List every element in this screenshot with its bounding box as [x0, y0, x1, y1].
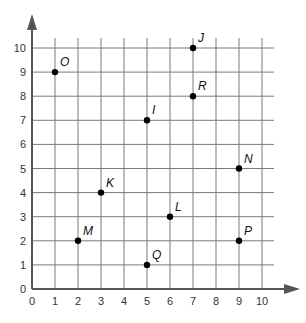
- x-tick-label: 0: [29, 295, 35, 307]
- point-marker-icon: [75, 238, 81, 244]
- y-tick-label: 6: [20, 138, 26, 150]
- x-tick-label: 8: [213, 295, 219, 307]
- x-tick-label: 4: [121, 295, 127, 307]
- plotted-points: OJRINKLMPQ: [52, 31, 253, 268]
- point-label: P: [244, 224, 252, 238]
- point-label: N: [244, 152, 253, 166]
- point-marker-icon: [236, 238, 242, 244]
- x-tick-label: 1: [52, 295, 58, 307]
- y-tick-label: 1: [20, 259, 26, 271]
- y-tick-label: 2: [20, 235, 26, 247]
- y-tick-labels: 012345678910: [14, 42, 26, 295]
- y-axis-arrow-icon: [27, 14, 37, 30]
- y-tick-label: 9: [20, 66, 26, 78]
- point-marker-icon: [190, 45, 196, 51]
- x-tick-label: 6: [167, 295, 173, 307]
- y-tick-label: 7: [20, 114, 26, 126]
- x-tick-label: 10: [256, 295, 268, 307]
- point-label: M: [83, 224, 93, 238]
- point-label: I: [152, 103, 156, 117]
- point-marker-icon: [52, 69, 58, 75]
- y-tick-label: 5: [20, 163, 26, 175]
- x-tick-labels: 012345678910: [29, 295, 268, 307]
- y-tick-label: 10: [14, 42, 26, 54]
- y-tick-label: 4: [20, 187, 26, 199]
- point-label: K: [106, 176, 115, 190]
- point-label: J: [197, 31, 205, 45]
- y-tick-label: 0: [20, 283, 26, 295]
- point-label: O: [60, 55, 69, 69]
- coordinate-grid: 012345678910 012345678910 OJRINKLMPQ: [0, 0, 306, 323]
- point-label: L: [175, 200, 182, 214]
- x-tick-label: 2: [75, 295, 81, 307]
- point-label: R: [198, 79, 207, 93]
- point-marker-icon: [236, 165, 242, 171]
- x-axis-arrow-icon: [284, 284, 300, 294]
- point-label: Q: [152, 248, 161, 262]
- point-marker-icon: [167, 214, 173, 220]
- x-tick-label: 5: [144, 295, 150, 307]
- x-tick-label: 9: [236, 295, 242, 307]
- x-tick-label: 7: [190, 295, 196, 307]
- point-marker-icon: [98, 189, 104, 195]
- y-tick-label: 3: [20, 211, 26, 223]
- point-marker-icon: [190, 93, 196, 99]
- x-tick-label: 3: [98, 295, 104, 307]
- point-marker-icon: [144, 262, 150, 268]
- y-tick-label: 8: [20, 90, 26, 102]
- point-marker-icon: [144, 117, 150, 123]
